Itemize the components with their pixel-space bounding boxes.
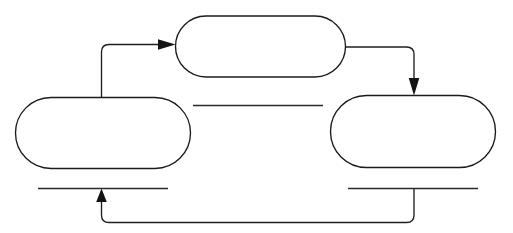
connector-right-to-left-path	[102, 189, 415, 223]
connector-top-to-right	[345, 47, 419, 96]
node-top[interactable]	[176, 16, 346, 77]
connector-right-to-left	[96, 189, 414, 223]
node-right-shape[interactable]	[331, 96, 496, 168]
arrow-head-into-top-box	[158, 39, 176, 50]
node-top-shape[interactable]	[176, 16, 346, 77]
arrow-head-into-left-blank-line	[96, 189, 107, 203]
diagram-canvas	[0, 0, 513, 233]
node-right[interactable]	[331, 96, 496, 168]
node-left[interactable]	[16, 98, 191, 169]
cycle-diagram	[0, 0, 513, 233]
node-left-shape[interactable]	[16, 98, 191, 169]
connector-top-to-right-path	[345, 47, 414, 80]
arrow-head-into-right-box	[409, 78, 420, 96]
connector-left-to-top-path	[102, 45, 161, 99]
connector-left-to-top	[102, 39, 176, 98]
